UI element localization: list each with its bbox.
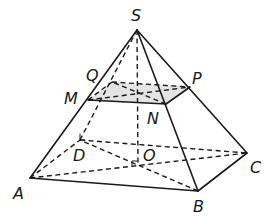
label-n: N (147, 109, 159, 128)
label-m: M (64, 89, 78, 108)
label-q: Q (86, 66, 99, 85)
edge-dc (80, 140, 247, 153)
label-s: S (131, 6, 141, 25)
pyramid-diagram: S Q P M N D O C A B (0, 0, 269, 216)
hidden-edges (30, 30, 247, 191)
label-b: B (193, 197, 204, 216)
label-c: C (250, 158, 262, 177)
diag-ac (30, 153, 247, 178)
label-p: P (192, 69, 202, 88)
label-a: A (12, 184, 24, 203)
edge-bc (198, 153, 247, 191)
visible-edges (30, 30, 247, 191)
label-d: D (73, 146, 85, 165)
label-o: O (143, 146, 156, 165)
